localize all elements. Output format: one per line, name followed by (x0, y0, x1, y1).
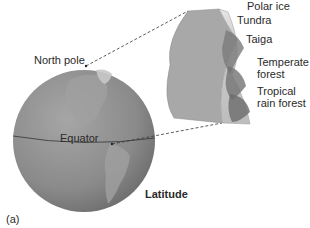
temperate-forest-vegetation (226, 66, 246, 100)
label-taiga: Taiga (246, 33, 272, 45)
label-temperate-forest: Temperate forest (257, 56, 310, 80)
biome-wedge (167, 9, 250, 124)
label-equator: Equator (60, 132, 99, 144)
label-polar-ice: Polar ice (247, 0, 290, 12)
panel-label: (a) (6, 213, 19, 225)
label-tundra: Tundra (237, 14, 271, 26)
label-latitude: Latitude (145, 188, 188, 200)
label-north-pole: North pole (34, 54, 85, 66)
label-tropical-rain-forest: Tropical rain forest (257, 85, 310, 109)
